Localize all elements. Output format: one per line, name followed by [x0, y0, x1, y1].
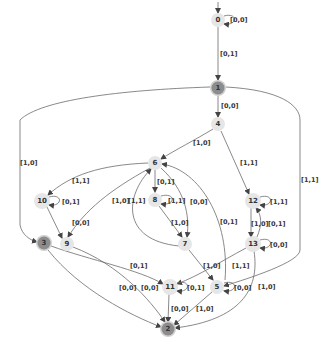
node-3[interactable]: 3 — [36, 235, 52, 251]
edge-label: [0,1] — [187, 284, 204, 292]
edge-label: [1,1] — [72, 177, 89, 185]
edge-label: [1,0] — [196, 305, 213, 313]
edge-10-10 — [49, 196, 60, 205]
svg-text:2: 2 — [166, 325, 171, 333]
node-0[interactable]: 0 — [211, 13, 225, 27]
svg-text:13: 13 — [248, 240, 258, 248]
edge-label: [0,0] — [270, 241, 287, 249]
edge-label: [1,0] — [203, 262, 220, 270]
edge-label: [1,1] — [232, 262, 249, 270]
edge-label: [1,1] — [128, 197, 145, 205]
edge-label: [0,1] — [130, 262, 147, 270]
edge-label: [0,0] — [221, 102, 238, 110]
node-6[interactable]: 6 — [148, 156, 162, 170]
node-2[interactable]: 2 — [160, 321, 176, 337]
node-13[interactable]: 13 — [245, 236, 261, 252]
edge-12-12 — [260, 196, 271, 205]
diagram-svg: [0,0] [0,1] [0,0] [1,0] [1,1] [1,0] [1,1… — [0, 0, 333, 357]
edge-label: [0,0] — [141, 284, 158, 292]
edge-6-10 — [48, 163, 148, 195]
edge-label: [0,0] — [234, 284, 251, 292]
svg-text:6: 6 — [153, 159, 158, 167]
edge-label: [0,0] — [171, 305, 188, 313]
state-diagram: [0,0] [0,1] [0,0] [1,0] [1,1] [1,0] [1,1… — [0, 0, 333, 357]
svg-text:10: 10 — [37, 197, 47, 205]
edge-label: [0,1] — [62, 198, 79, 206]
svg-text:8: 8 — [153, 196, 158, 204]
node-10[interactable]: 10 — [34, 193, 50, 209]
edge-label: [1,1] — [270, 198, 287, 206]
edge-13-13 — [260, 239, 271, 248]
svg-text:11: 11 — [165, 283, 175, 291]
edge-label: [1,1] — [168, 197, 185, 205]
edge-label: [0,1] — [220, 218, 237, 226]
edge-label: [0,0] — [190, 198, 207, 206]
node-9[interactable]: 9 — [60, 237, 74, 251]
node-5[interactable]: 5 — [210, 280, 224, 294]
edge-1-5 — [224, 87, 300, 286]
node-11[interactable]: 11 — [162, 279, 178, 295]
edge-label: [1,1] — [240, 159, 257, 167]
edge-label: [0,1] — [268, 220, 285, 228]
svg-text:7: 7 — [183, 240, 188, 248]
svg-text:4: 4 — [216, 120, 221, 128]
edge-label: [1,0] — [251, 220, 268, 228]
edge-label: [0,0] — [230, 16, 247, 24]
edge-label: [0,1] — [220, 50, 237, 58]
node-4[interactable]: 4 — [211, 117, 225, 131]
svg-text:0: 0 — [216, 16, 221, 24]
svg-text:5: 5 — [215, 283, 220, 291]
edge-label: [1,0] — [258, 283, 275, 291]
edge-label: [0,0] — [72, 219, 89, 227]
svg-text:9: 9 — [65, 240, 70, 248]
edge-label: [1,0] — [20, 159, 37, 167]
node-1[interactable]: 1 — [210, 80, 226, 96]
edge-label: [1,0] — [193, 139, 210, 147]
node-12[interactable]: 12 — [245, 193, 261, 209]
edge-11-2 — [168, 294, 169, 322]
svg-text:1: 1 — [216, 84, 221, 92]
svg-text:3: 3 — [42, 239, 47, 247]
edge-label: [0,1] — [157, 178, 174, 186]
edge-label: [1,0] — [171, 219, 188, 227]
edge-label: [0,0] — [119, 284, 136, 292]
edge-5-5 — [224, 282, 235, 291]
node-8[interactable]: 8 — [148, 193, 162, 207]
edge-10-9 — [47, 207, 62, 238]
edge-label: [1,0] — [112, 197, 129, 205]
node-7[interactable]: 7 — [178, 237, 192, 251]
svg-text:12: 12 — [248, 197, 258, 205]
edge-label: [1,1] — [301, 176, 318, 184]
